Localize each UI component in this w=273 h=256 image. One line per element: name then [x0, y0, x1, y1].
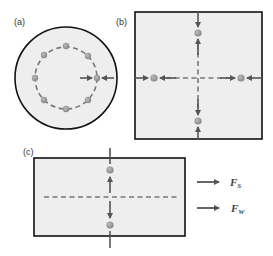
dot-bottom [106, 221, 113, 228]
legend: FS FW [197, 176, 245, 216]
panel-c-label: (c) [23, 147, 34, 157]
dot-top [194, 29, 201, 36]
dot [85, 97, 91, 103]
dot [63, 106, 69, 112]
panel-a: (a) [14, 17, 117, 129]
dot [41, 52, 47, 58]
dot-left [150, 74, 157, 81]
dot-bottom [194, 117, 201, 124]
dot-right [237, 74, 244, 81]
legend-fs: FS [229, 176, 241, 190]
diagram-canvas: (a) (b) [0, 0, 273, 256]
dot [32, 75, 38, 81]
outer-circle [15, 27, 117, 129]
dot [63, 43, 69, 49]
dot [41, 97, 47, 103]
panel-b: (b) [116, 11, 262, 140]
panel-b-label: (b) [116, 17, 127, 27]
dot [85, 53, 91, 59]
dot-top [106, 166, 113, 173]
panel-c: (c) [23, 147, 185, 248]
dot [94, 75, 100, 81]
legend-fw: FW [230, 202, 245, 216]
panel-a-label: (a) [14, 17, 25, 27]
